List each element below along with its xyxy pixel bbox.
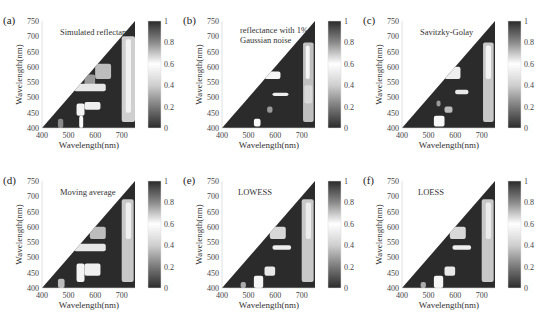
colorbar-tick-label: 0.6: [164, 60, 174, 69]
y-axis-label: Wavelength(nm): [374, 44, 384, 104]
y-tick-label: 600: [207, 223, 219, 232]
colorbar-tick-label: 0.6: [344, 60, 354, 69]
panel-e: 400450500550600650700750400500600700Wave…: [180, 160, 361, 310]
colorbar: [148, 181, 161, 288]
y-tick-label: 750: [207, 17, 219, 26]
panel-title: Simulated reflectance: [60, 27, 134, 37]
panel-d: 400450500550600650700750400500600700Wave…: [0, 160, 181, 310]
colorbar-tick-label: 0.2: [344, 263, 354, 272]
x-tick-label: 600: [89, 131, 101, 140]
y-axis-label: Wavelength(nm): [194, 44, 204, 104]
panel-title-line2: Gaussian noise: [240, 35, 291, 45]
y-axis-label: Wavelength(nm): [14, 44, 24, 104]
x-tick-label: 400: [396, 291, 408, 300]
x-tick-label: 500: [243, 131, 255, 140]
x-tick-label: 700: [296, 291, 308, 300]
x-tick-label: 600: [449, 131, 461, 140]
colorbar-tick-label: 0.2: [344, 103, 354, 112]
y-tick-label: 450: [27, 109, 39, 118]
y-tick-label: 700: [387, 192, 399, 201]
y-tick-label: 500: [387, 253, 399, 262]
colorbar-tick-label: 0.8: [344, 198, 354, 207]
colorbar-tick-label: 0.4: [524, 241, 534, 250]
colorbar-tick-label: 0.6: [344, 220, 354, 229]
panel-title: Savitzky-Golay: [420, 27, 474, 37]
x-axis-label: Wavelength(nm): [239, 300, 299, 310]
colorbar-tick-label: 0.2: [524, 103, 534, 112]
panel-title: Moving average: [60, 187, 116, 197]
panel-a: 400450500550600650700750400500600700Wave…: [0, 0, 181, 150]
y-tick-label: 700: [207, 192, 219, 201]
panel-title: LOESS: [418, 187, 444, 197]
colorbar-tick-label: 0.2: [524, 263, 534, 272]
x-tick-label: 700: [296, 131, 308, 140]
y-tick-label: 750: [27, 17, 39, 26]
x-tick-label: 500: [423, 291, 435, 300]
panel-tag: (f): [363, 174, 374, 187]
y-tick-label: 450: [207, 269, 219, 278]
y-tick-label: 700: [27, 192, 39, 201]
colorbar-tick-label: 1: [344, 177, 348, 186]
y-tick-label: 650: [207, 208, 219, 217]
colorbar: [508, 21, 521, 128]
y-tick-label: 450: [27, 269, 39, 278]
colorbar-tick-label: 0.2: [164, 263, 174, 272]
panel-tag: (d): [3, 174, 16, 187]
colorbar-tick-label: 0.4: [524, 81, 534, 90]
colorbar-tick-label: 0: [344, 284, 348, 293]
panel-tag: (a): [3, 14, 16, 27]
y-tick-label: 550: [27, 78, 39, 87]
colorbar: [328, 181, 341, 288]
y-tick-label: 600: [27, 63, 39, 72]
colorbar-tick-label: 0.6: [164, 220, 174, 229]
x-tick-label: 500: [63, 131, 75, 140]
x-tick-label: 600: [89, 291, 101, 300]
panel-f: 400450500550600650700750400500600700Wave…: [360, 160, 541, 310]
colorbar: [328, 21, 341, 128]
colorbar-tick-label: 0.8: [164, 38, 174, 47]
heatmap: [402, 21, 495, 128]
y-tick-label: 550: [207, 238, 219, 247]
y-tick-label: 750: [387, 17, 399, 26]
x-tick-label: 400: [36, 291, 48, 300]
y-tick-label: 600: [387, 63, 399, 72]
panel-c: 400450500550600650700750400500600700Wave…: [360, 0, 541, 150]
colorbar-tick-label: 1: [164, 17, 168, 26]
y-tick-label: 750: [387, 177, 399, 186]
y-tick-label: 650: [27, 208, 39, 217]
y-tick-label: 750: [207, 177, 219, 186]
colorbar: [508, 181, 521, 288]
colorbar-tick-label: 0: [164, 284, 168, 293]
colorbar-tick-label: 1: [344, 17, 348, 26]
x-tick-label: 600: [269, 291, 281, 300]
y-axis-label: Wavelength(nm): [374, 204, 384, 264]
x-axis-label: Wavelength(nm): [59, 140, 119, 150]
colorbar-tick-label: 1: [524, 17, 528, 26]
x-tick-label: 700: [116, 131, 128, 140]
x-axis-label: Wavelength(nm): [419, 300, 479, 310]
y-tick-label: 600: [207, 63, 219, 72]
x-tick-label: 600: [269, 131, 281, 140]
x-tick-label: 400: [216, 291, 228, 300]
y-tick-label: 650: [27, 48, 39, 57]
y-axis-label: Wavelength(nm): [14, 204, 24, 264]
x-axis-label: Wavelength(nm): [239, 140, 299, 150]
panel-b: 400450500550600650700750400500600700Wave…: [180, 0, 361, 150]
y-tick-label: 500: [207, 93, 219, 102]
x-tick-label: 400: [396, 131, 408, 140]
x-tick-label: 700: [476, 291, 488, 300]
y-tick-label: 550: [387, 78, 399, 87]
heatmap: [222, 181, 315, 288]
y-tick-label: 650: [207, 48, 219, 57]
colorbar-tick-label: 0.4: [344, 241, 354, 250]
y-tick-label: 450: [387, 269, 399, 278]
colorbar-tick-label: 0.8: [164, 198, 174, 207]
y-tick-label: 650: [387, 48, 399, 57]
y-tick-label: 700: [387, 32, 399, 41]
colorbar-tick-label: 0.4: [164, 81, 174, 90]
y-tick-label: 700: [207, 32, 219, 41]
y-tick-label: 550: [387, 238, 399, 247]
colorbar-tick-label: 0.4: [164, 241, 174, 250]
x-tick-label: 700: [476, 131, 488, 140]
y-tick-label: 600: [387, 223, 399, 232]
